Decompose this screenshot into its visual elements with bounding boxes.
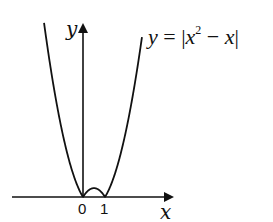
function-equation-label: y = |x2 − x| (148, 24, 239, 50)
x-tick-label-1: 1 (100, 200, 108, 217)
eq-minus: − (201, 24, 224, 49)
x-tick-label-0: 0 (78, 200, 86, 217)
y-axis-label: y (65, 17, 78, 41)
eq-bar: | (235, 24, 239, 49)
eq-equals-bar: = | (158, 24, 186, 49)
eq-exponent: 2 (195, 23, 201, 37)
eq-x2: x (225, 24, 235, 49)
eq-x: x (186, 24, 196, 49)
curve-abs-x2-minus-x (44, 23, 142, 197)
x-axis-label: x (160, 200, 171, 222)
eq-y: y (148, 24, 158, 49)
